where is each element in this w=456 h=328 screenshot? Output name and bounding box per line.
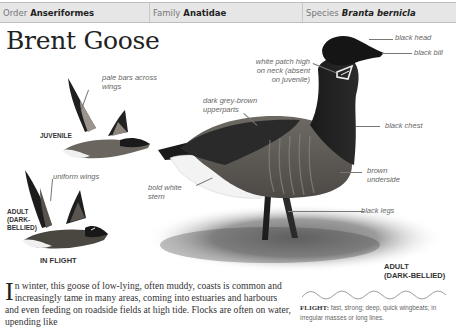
caption-adult-standing: ADULT (DARK-BELLIED) bbox=[384, 262, 445, 280]
description-paragraph: In winter, this goose of low-lying, ofte… bbox=[5, 280, 293, 328]
label-white-stern: bold white stern bbox=[148, 183, 182, 201]
label-line: wings bbox=[102, 82, 157, 91]
caption-adult-flight: ADULT (DARK- BELLIED) bbox=[7, 208, 37, 232]
label-line: on juvenile) bbox=[222, 75, 310, 84]
caption-juvenile: JUVENILE bbox=[40, 132, 72, 140]
description-text: n winter, this goose of low-lying, often… bbox=[5, 280, 291, 327]
label-black-head: black head bbox=[395, 33, 431, 42]
leader-line bbox=[288, 211, 364, 212]
drop-cap: I bbox=[5, 281, 14, 302]
leader-line bbox=[356, 126, 380, 127]
label-white-patch: white patch high on neck (absent on juve… bbox=[222, 57, 310, 84]
label-line: dark grey-brown bbox=[203, 96, 257, 105]
label-brown-underside: brown underside bbox=[367, 166, 400, 184]
caption-line: ADULT bbox=[384, 262, 445, 271]
flight-label: FLIGHT: bbox=[300, 304, 329, 312]
flight-description: FLIGHT: fast, strong; deep, quick wingbe… bbox=[300, 303, 452, 322]
flight-pattern-wave bbox=[300, 285, 450, 301]
label-upperparts: dark grey-brown upperparts bbox=[203, 96, 257, 114]
label-pale-bars: pale bars across wings bbox=[102, 73, 157, 91]
leader-line bbox=[340, 172, 362, 173]
goose-leg bbox=[282, 195, 298, 238]
label-line: on neck (absent bbox=[222, 66, 310, 75]
label-uniform-wings: uniform wings bbox=[53, 172, 99, 181]
label-line: underside bbox=[367, 175, 400, 184]
label-black-legs: black legs bbox=[361, 206, 394, 215]
caption-line: (DARK- bbox=[7, 216, 37, 224]
label-line: bold white bbox=[148, 183, 182, 192]
leader-line bbox=[382, 53, 412, 54]
label-line: upperparts bbox=[203, 105, 257, 114]
label-line: white patch high bbox=[222, 57, 310, 66]
caption-in-flight: IN FLIGHT bbox=[40, 257, 77, 265]
label-black-bill: black bill bbox=[414, 48, 443, 57]
caption-line: (DARK-BELLIED) bbox=[384, 271, 445, 280]
leader-line bbox=[369, 39, 393, 40]
caption-line: BELLIED) bbox=[7, 224, 37, 232]
label-black-chest: black chest bbox=[385, 121, 423, 130]
goose-leg bbox=[262, 195, 271, 240]
caption-line: ADULT bbox=[7, 208, 37, 216]
label-line: stern bbox=[148, 192, 182, 201]
label-line: brown bbox=[367, 166, 400, 175]
label-line: pale bars across bbox=[102, 73, 157, 82]
